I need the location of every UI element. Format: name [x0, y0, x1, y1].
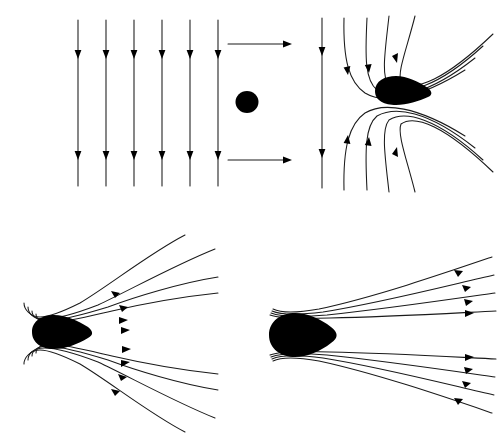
streamline-arrowheads [344, 53, 398, 157]
arrowhead-down-icon [319, 149, 326, 158]
arrowhead-down-icon [75, 151, 82, 160]
arrowhead-down-icon [319, 47, 326, 56]
arrowhead-right-icon [454, 398, 463, 405]
arrowhead-icon [365, 137, 372, 146]
streamline [273, 257, 492, 312]
rounded-obstacle [269, 313, 337, 357]
arrowhead-right-icon [119, 317, 128, 324]
arrowhead-right-icon [283, 157, 292, 164]
streamlines-lower [344, 107, 493, 192]
streamlines-lower [24, 344, 218, 432]
streamline-arrowheads [454, 270, 474, 405]
streamline [366, 111, 475, 190]
arrowhead-right-icon [462, 381, 471, 388]
panel-top-right [297, 0, 497, 210]
arrowhead-down-icon [103, 50, 110, 59]
arrowhead-down-icon [75, 50, 82, 59]
arrowhead-right-icon [122, 346, 131, 353]
streamline-arrowheads [111, 291, 131, 396]
panel-bottom-right [245, 235, 497, 435]
arrowhead-down-icon [159, 50, 166, 59]
arrowhead-icon [392, 147, 398, 157]
streamline [384, 116, 483, 192]
panel-bottom-left-canvas [0, 225, 250, 442]
streamline [344, 107, 465, 190]
panel-bottom-right-canvas [245, 235, 497, 435]
arrowhead-down-icon [187, 151, 194, 160]
streamlines-lower [270, 351, 496, 413]
streamline [32, 277, 218, 321]
teardrop-obstacle-body [32, 315, 92, 349]
arrowhead-down-icon [131, 151, 138, 160]
streamline [24, 350, 185, 432]
arrowhead-down-icon [215, 151, 222, 160]
downward-arrowheads [75, 50, 222, 160]
arrowhead-down-icon [131, 50, 138, 59]
streamline [273, 358, 492, 413]
panel-top-left-canvas [0, 0, 300, 210]
arrowhead-icon [392, 53, 398, 63]
streamlines-upper [24, 235, 218, 323]
teardrop-obstacle [375, 76, 431, 105]
arrowhead-down-icon [159, 151, 166, 160]
arrowhead-down-icon [215, 50, 222, 59]
panel-bottom-left [0, 225, 250, 442]
reference-vertical-line [319, 18, 326, 188]
circular-obstacle [236, 91, 259, 113]
arrowhead-right-icon [464, 299, 473, 306]
streamline [24, 235, 185, 317]
streamlines-upper [270, 257, 496, 319]
arrowhead-right-icon [454, 270, 463, 277]
vertical-field-lines [78, 20, 218, 186]
arrowhead-right-icon [121, 327, 130, 334]
arrowhead-down-icon [187, 50, 194, 59]
arrowhead-down-icon [103, 151, 110, 160]
arrowhead-right-icon [465, 310, 474, 317]
figure-container [0, 0, 497, 442]
arrowhead-right-icon [465, 354, 474, 361]
arrowhead-right-icon [283, 41, 292, 48]
panel-top-left [0, 0, 300, 210]
arrowhead-right-icon [462, 285, 471, 292]
arrowhead-right-icon [119, 305, 128, 312]
panel-top-right-canvas [297, 0, 497, 210]
streamline [32, 346, 218, 390]
